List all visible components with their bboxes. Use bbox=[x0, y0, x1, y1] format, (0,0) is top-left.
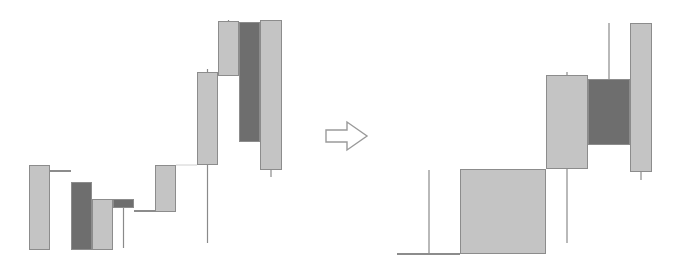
candle-down bbox=[114, 199, 134, 248]
candle-body bbox=[72, 183, 92, 250]
candle-up bbox=[547, 72, 588, 243]
candle-body bbox=[589, 80, 630, 145]
right-arrow-icon bbox=[326, 122, 367, 150]
candle-body bbox=[219, 22, 239, 76]
candle-down bbox=[72, 182, 92, 250]
candle-up bbox=[198, 69, 218, 243]
candle-down bbox=[589, 23, 630, 145]
candle-body bbox=[135, 211, 155, 212]
candle-body bbox=[30, 166, 50, 250]
candlestick-transformation-figure bbox=[0, 0, 679, 269]
candle-body bbox=[461, 170, 546, 254]
candle-up bbox=[219, 20, 239, 76]
candle-down bbox=[398, 170, 460, 255]
right-candlestick-chart bbox=[398, 23, 652, 255]
candle-up bbox=[261, 20, 282, 177]
candle-down bbox=[240, 22, 260, 142]
candle-down bbox=[51, 170, 71, 172]
candle-body bbox=[93, 200, 113, 250]
candle-up bbox=[461, 169, 546, 254]
candle-up bbox=[156, 165, 176, 212]
candle-up bbox=[93, 199, 113, 250]
left-candlestick-chart bbox=[30, 20, 282, 250]
candle-down bbox=[135, 210, 155, 212]
candle-body bbox=[156, 166, 176, 212]
candle-body bbox=[261, 21, 282, 170]
candle-up bbox=[30, 165, 50, 250]
candle-body bbox=[631, 24, 652, 172]
candle-up bbox=[631, 23, 652, 180]
candle-body bbox=[51, 171, 71, 172]
candle-body bbox=[240, 23, 260, 142]
candle-body bbox=[198, 73, 218, 165]
candle-body bbox=[547, 76, 588, 169]
candle-body bbox=[114, 200, 134, 208]
candle-body bbox=[398, 254, 460, 255]
